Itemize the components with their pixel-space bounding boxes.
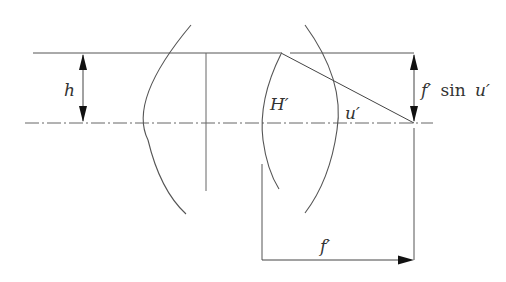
label-sin-part: sin <box>441 80 466 100</box>
arrow-up-icon <box>79 54 87 70</box>
arrow-right-icon <box>398 256 414 265</box>
arrow-up-icon <box>410 54 418 70</box>
label-f-prime: f′ <box>318 236 330 256</box>
label-u-prime: u′ <box>345 103 360 123</box>
label-f-prime-part: f′ <box>419 80 431 100</box>
label-H-prime: H′ <box>269 94 289 114</box>
arrow-down-icon <box>410 106 418 122</box>
label-u-prime-part: u′ <box>475 80 490 100</box>
optical-system-diagram: h H′ u′ f′ sin u′ f′ <box>0 0 506 282</box>
label-h: h <box>64 80 75 100</box>
lens-2-left-surface <box>262 54 281 189</box>
arrow-down-icon <box>79 106 87 122</box>
label-f-sin-u: f′ sin u′ <box>419 80 490 100</box>
